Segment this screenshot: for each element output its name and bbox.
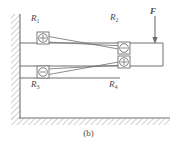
force-arrow	[152, 16, 157, 44]
label-r1-subscript: 1	[37, 18, 40, 24]
label-r4-text: R	[109, 79, 115, 89]
label-r4: R4	[109, 80, 118, 89]
wall-support	[11, 14, 20, 119]
label-r3-text: R	[31, 79, 37, 89]
label-r3: R3	[31, 80, 40, 89]
strain-gauge-r1	[37, 32, 49, 44]
label-r1-text: R	[31, 13, 37, 23]
label-r2-text: R	[110, 12, 116, 22]
figure-caption: (b)	[0, 128, 177, 138]
ground-support	[11, 118, 170, 125]
wall-hatching	[11, 14, 20, 119]
strain-gauge-r2	[118, 42, 130, 54]
label-r1: R1	[31, 14, 40, 23]
gauge-wiring	[46, 36, 124, 75]
ground-hatching	[11, 118, 170, 125]
label-force-f: F	[150, 7, 156, 16]
label-r4-subscript: 4	[115, 84, 118, 90]
cantilever-beam-strain-gauge-diagram	[0, 0, 177, 148]
strain-gauge-r4	[118, 56, 130, 68]
label-r2: R2	[110, 13, 119, 22]
strain-gauge-r3	[37, 66, 49, 78]
label-r3-subscript: 3	[37, 84, 40, 90]
label-r2-subscript: 2	[116, 17, 119, 23]
